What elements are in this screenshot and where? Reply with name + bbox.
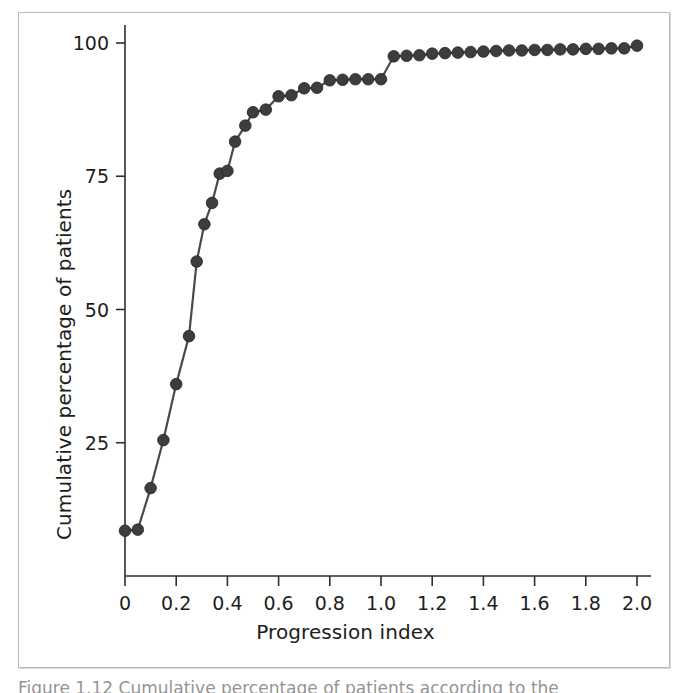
data-point-marker: [542, 44, 554, 56]
y-tick-label: 100: [73, 32, 109, 54]
data-point-marker: [414, 49, 426, 61]
x-tick-label: 1.0: [366, 592, 396, 614]
x-tick-label: 2.0: [622, 592, 652, 614]
data-point-marker: [206, 197, 218, 209]
data-point-marker: [618, 43, 630, 55]
data-point-marker: [465, 46, 477, 58]
data-point-marker: [375, 73, 387, 85]
y-tick-label: 75: [85, 165, 109, 187]
data-point-marker: [388, 51, 400, 63]
data-point-marker: [132, 524, 144, 536]
data-point-marker: [529, 44, 541, 56]
y-axis-title: Cumulative percentage of patients: [52, 189, 76, 540]
x-tick-label: 1.8: [571, 592, 601, 614]
x-tick-label: 1.2: [417, 592, 447, 614]
x-tick-label: 0.2: [161, 592, 191, 614]
line-chart-plot: 25507510000.20.40.60.81.01.21.41.61.82.0: [19, 13, 671, 669]
data-point-marker: [158, 434, 170, 446]
x-tick-label: 0.4: [212, 592, 242, 614]
data-point-marker: [199, 218, 211, 230]
data-point-marker: [298, 83, 310, 95]
figure-root: 25507510000.20.40.60.81.01.21.41.61.82.0…: [0, 0, 691, 693]
x-tick-label: 1.6: [519, 592, 549, 614]
figure-frame: 25507510000.20.40.60.81.01.21.41.61.82.0: [18, 12, 670, 668]
data-point-marker: [362, 73, 374, 85]
data-point-marker: [183, 330, 195, 342]
data-point-marker: [567, 44, 579, 56]
y-tick-label: 25: [85, 432, 109, 454]
data-point-marker: [490, 45, 502, 57]
y-tick-label: 50: [85, 299, 109, 321]
data-point-marker: [191, 256, 203, 268]
data-point-marker: [439, 47, 451, 59]
data-point-marker: [324, 75, 336, 87]
data-point-marker: [286, 89, 298, 101]
data-point-marker: [478, 46, 490, 58]
data-point-marker: [516, 45, 528, 57]
data-point-marker: [170, 378, 182, 390]
data-point-marker: [593, 43, 605, 55]
data-point-marker: [247, 106, 259, 118]
data-point-marker: [119, 525, 131, 537]
figure-caption: Figure 1.12 Cumulative percentage of pat…: [18, 678, 678, 693]
data-point-marker: [606, 43, 618, 55]
x-tick-label: 0.6: [263, 592, 293, 614]
data-point-marker: [222, 165, 234, 177]
data-point-marker: [311, 82, 323, 94]
x-tick-label: 1.4: [468, 592, 498, 614]
series-line: [125, 46, 637, 531]
x-tick-label: 0: [119, 592, 131, 614]
data-point-marker: [554, 44, 566, 56]
data-point-marker: [631, 40, 643, 52]
data-point-marker: [240, 120, 252, 132]
data-point-marker: [229, 136, 241, 148]
data-point-marker: [580, 43, 592, 55]
data-point-marker: [273, 91, 285, 103]
data-point-marker: [401, 50, 413, 62]
x-tick-label: 0.8: [315, 592, 345, 614]
data-point-marker: [337, 74, 349, 86]
data-point-marker: [452, 47, 464, 59]
data-point-marker: [260, 104, 272, 116]
data-point-marker: [426, 48, 438, 60]
data-point-marker: [503, 45, 515, 57]
x-axis-title: Progression index: [0, 620, 691, 644]
data-point-marker: [350, 73, 362, 85]
data-point-marker: [145, 482, 157, 494]
